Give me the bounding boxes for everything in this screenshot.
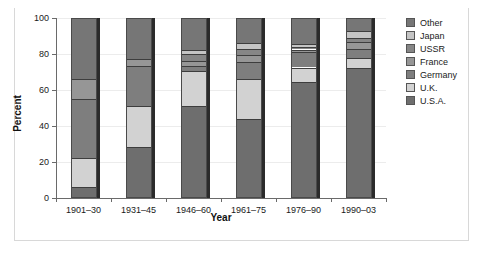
- bar-shadow: [207, 18, 210, 198]
- gridline: [57, 18, 386, 19]
- bar-segment-Other[interactable]: [126, 18, 152, 59]
- x-tick-label: 1946–60: [176, 205, 211, 215]
- bar-segment-Germany[interactable]: [291, 52, 317, 67]
- legend-item-UK[interactable]: U.K.: [406, 81, 476, 94]
- y-tick-label: 80: [39, 49, 49, 59]
- bar-segment-UK[interactable]: [346, 58, 372, 69]
- bar-segment-Other[interactable]: [236, 18, 262, 43]
- legend-item-Japan[interactable]: Japan: [406, 29, 476, 42]
- bar-segment-USA[interactable]: [291, 82, 317, 198]
- bar-segment-UK[interactable]: [291, 68, 317, 82]
- bar-segment-USA[interactable]: [126, 147, 152, 198]
- bar-1976–90[interactable]: [291, 18, 317, 198]
- gridline: [57, 54, 386, 55]
- x-tick-mark: [221, 198, 222, 202]
- bar-1946–60[interactable]: [181, 18, 207, 198]
- bar-1961–75[interactable]: [236, 18, 262, 198]
- x-axis-title: Year: [56, 212, 386, 223]
- bar-segment-USSR[interactable]: [291, 47, 317, 50]
- bar-segment-UK[interactable]: [71, 158, 97, 187]
- legend-item-France[interactable]: France: [406, 55, 476, 68]
- figure-border-bottom: [14, 240, 469, 241]
- x-tick-mark: [166, 198, 167, 202]
- bar-segment-Other[interactable]: [291, 18, 317, 44]
- bar-segment-USA[interactable]: [181, 106, 207, 198]
- legend-item-USSR[interactable]: USSR: [406, 42, 476, 55]
- legend-swatch-icon: [406, 57, 415, 66]
- bar-segment-USA[interactable]: [236, 119, 262, 198]
- bar-segment-Germany[interactable]: [346, 49, 372, 58]
- y-tick-mark: [52, 54, 56, 55]
- y-tick-mark: [52, 162, 56, 163]
- bar-segment-UK[interactable]: [181, 71, 207, 106]
- legend-swatch-icon: [406, 18, 415, 27]
- bar-segment-USSR[interactable]: [236, 49, 262, 55]
- bar-shadow: [317, 18, 320, 198]
- bar-segment-USSR[interactable]: [181, 54, 207, 61]
- plot-area: 020406080100 1901–301931–451946–601961–7…: [56, 18, 386, 198]
- bar-1931–45[interactable]: [126, 18, 152, 198]
- x-tick-label: 1931–45: [121, 205, 156, 215]
- y-tick-mark: [52, 18, 56, 19]
- legend-label: Germany: [420, 70, 457, 80]
- legend-label: U.K.: [420, 83, 438, 93]
- bar-segment-Germany[interactable]: [71, 99, 97, 158]
- legend-swatch-icon: [406, 31, 415, 40]
- y-tick-mark: [52, 90, 56, 91]
- y-tick-label: 40: [39, 121, 49, 131]
- y-tick-label: 100: [34, 13, 49, 23]
- bar-segment-France[interactable]: [291, 50, 317, 53]
- legend-item-USA[interactable]: U.S.A.: [406, 94, 476, 107]
- bar-segment-USA[interactable]: [346, 68, 372, 198]
- bar-segment-Other[interactable]: [181, 18, 207, 50]
- bar-shadow: [152, 18, 155, 198]
- y-axis-line: [56, 18, 57, 198]
- bar-segment-France[interactable]: [126, 59, 152, 65]
- bar-segment-Other[interactable]: [346, 18, 372, 31]
- legend-label: Other: [420, 18, 443, 28]
- bar-segment-Japan[interactable]: [291, 44, 317, 47]
- bar-segment-Germany[interactable]: [126, 66, 152, 107]
- bar-1901–30[interactable]: [71, 18, 97, 198]
- y-tick-mark: [52, 126, 56, 127]
- x-tick-mark: [111, 198, 112, 202]
- y-tick-label: 20: [39, 157, 49, 167]
- legend-item-Germany[interactable]: Germany: [406, 68, 476, 81]
- x-tick-label: 1976–90: [286, 205, 321, 215]
- bar-shadow: [97, 18, 100, 198]
- x-tick-mark: [56, 198, 57, 202]
- bar-segment-Japan[interactable]: [236, 43, 262, 48]
- x-tick-label: 1961–75: [231, 205, 266, 215]
- bar-segment-USSR[interactable]: [346, 38, 372, 43]
- bar-segment-Japan[interactable]: [181, 50, 207, 55]
- bar-1990–03[interactable]: [346, 18, 372, 198]
- gridline: [57, 162, 386, 163]
- bar-segment-UK[interactable]: [126, 106, 152, 147]
- bar-segment-France[interactable]: [346, 42, 372, 48]
- x-tick-mark: [331, 198, 332, 202]
- legend-item-Other[interactable]: Other: [406, 16, 476, 29]
- chart-figure: Percent Year 020406080100 1901–301931–45…: [0, 0, 483, 256]
- legend-swatch-icon: [406, 83, 415, 92]
- bar-shadow: [262, 18, 265, 198]
- legend-swatch-icon: [406, 70, 415, 79]
- x-tick-label: 1990–03: [341, 205, 376, 215]
- y-tick-label: 60: [39, 85, 49, 95]
- bar-segment-France[interactable]: [236, 55, 262, 62]
- legend-swatch-icon: [406, 44, 415, 53]
- chart-legend: OtherJapanUSSRFranceGermanyU.K.U.S.A.: [406, 16, 476, 107]
- bar-segment-Japan[interactable]: [346, 31, 372, 38]
- y-tick-label: 0: [44, 193, 49, 203]
- legend-swatch-icon: [406, 96, 415, 105]
- legend-label: France: [420, 57, 448, 67]
- x-tick-mark: [386, 198, 387, 202]
- bar-segment-Other[interactable]: [71, 18, 97, 79]
- bar-segment-USA[interactable]: [71, 187, 97, 198]
- bar-segment-UK[interactable]: [236, 79, 262, 119]
- bar-shadow: [372, 18, 375, 198]
- gridline: [57, 126, 386, 127]
- bar-segment-Germany[interactable]: [181, 66, 207, 71]
- bar-segment-France[interactable]: [71, 79, 97, 99]
- bar-segment-Germany[interactable]: [236, 62, 262, 79]
- bar-segment-France[interactable]: [181, 61, 207, 66]
